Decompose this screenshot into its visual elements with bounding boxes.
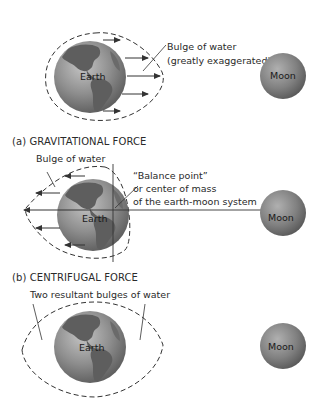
caption-centrifugal: (b) CENTRIFUGAL FORCE xyxy=(12,272,138,283)
bulges-label: Two resultant bulges of water xyxy=(29,289,170,300)
panel-centrifugal: Earth Bulge of water “Balance point” or … xyxy=(12,153,306,283)
tides-diagram: Earth Bulge of water (greatly exaggerate… xyxy=(0,0,326,400)
balance-label-line3: of the earth-moon system xyxy=(133,196,257,207)
earth-label: Earth xyxy=(80,71,105,82)
moon-label: Moon xyxy=(270,70,296,81)
balance-label-line1: “Balance point” xyxy=(133,170,208,181)
moon-label: Moon xyxy=(268,341,294,352)
bulge-leader-left xyxy=(33,304,42,340)
bulge-label: Bulge of water xyxy=(36,153,105,164)
panel-resultant: Earth Two resultant bulges of water Moon xyxy=(22,289,306,397)
moon-label: Moon xyxy=(268,212,294,223)
earth-label: Earth xyxy=(79,342,104,353)
bulge-annotation-line2: (greatly exaggerated) xyxy=(167,55,271,66)
bulge-leader-right xyxy=(140,304,145,340)
bulge-annotation-line1: Bulge of water xyxy=(167,41,236,52)
earth-label: Earth xyxy=(82,213,107,224)
balance-label-line2: or center of mass xyxy=(133,183,217,194)
caption-gravitational: (a) GRAVITATIONAL FORCE xyxy=(12,136,146,147)
panel-gravitational: Earth Bulge of water (greatly exaggerate… xyxy=(12,33,306,147)
